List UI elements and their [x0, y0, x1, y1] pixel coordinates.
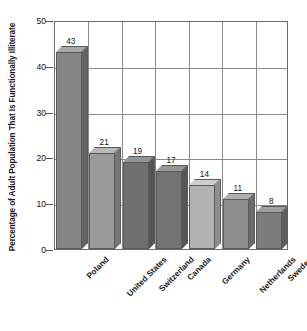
y-axis-tick-mark	[45, 204, 53, 205]
bar-value-label: 11	[218, 184, 258, 193]
bar	[223, 199, 249, 249]
bar	[89, 153, 115, 249]
chart-container: Percentage of Adult Population That Is F…	[0, 0, 307, 331]
bar-front-face	[189, 185, 215, 249]
y-axis-tick-mark	[45, 67, 53, 68]
x-axis-category-label: Germany	[221, 255, 252, 286]
bar-front-face	[256, 212, 282, 249]
gridline-horizontal	[55, 68, 287, 69]
bar-front-face	[56, 52, 82, 249]
bar-value-label: 17	[151, 156, 191, 165]
x-axis-category-label: Poland	[85, 255, 111, 281]
bar-value-label: 14	[184, 170, 224, 179]
y-axis-tick-mark	[45, 21, 53, 22]
bar	[189, 185, 215, 249]
y-axis-tick-label: 40	[16, 63, 46, 71]
bar-value-label: 43	[51, 37, 91, 46]
y-axis-tick-label: 0	[16, 246, 46, 254]
y-axis-tick-label: 30	[16, 109, 46, 117]
gridline-horizontal	[55, 114, 287, 115]
y-axis-title: Percentage of Adult Population That Is F…	[6, 12, 20, 262]
bar	[123, 162, 149, 249]
y-axis-tick-label: 20	[16, 154, 46, 162]
plot-area: 4321191714118	[54, 21, 288, 250]
bar-value-label: 21	[84, 138, 124, 147]
bar-value-label: 19	[118, 147, 158, 156]
y-axis-tick-label: 10	[16, 200, 46, 208]
y-axis-tick-mark	[45, 113, 53, 114]
bar-side-face	[115, 147, 121, 249]
bar	[156, 171, 182, 249]
bar-side-face	[282, 206, 288, 249]
bar	[56, 52, 82, 249]
bar	[256, 212, 282, 249]
bar-side-face	[149, 156, 155, 249]
y-axis-tick-mark	[45, 250, 53, 251]
bar-front-face	[156, 171, 182, 249]
bar-value-label: 8	[251, 197, 291, 206]
bar-front-face	[223, 199, 249, 249]
bar-front-face	[123, 162, 149, 249]
bar-side-face	[82, 46, 88, 249]
bar-front-face	[89, 153, 115, 249]
y-axis-tick-mark	[45, 158, 53, 159]
y-axis-tick-label: 50	[16, 17, 46, 25]
